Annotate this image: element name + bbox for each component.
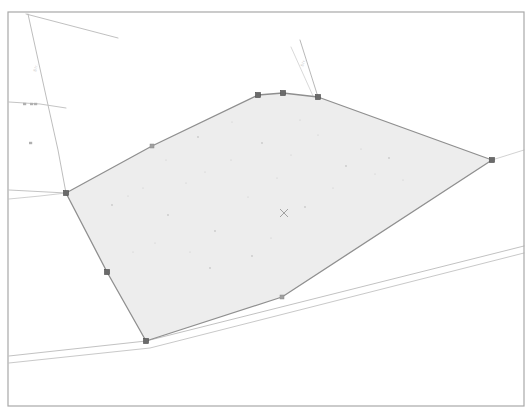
parcel-vertex-handle[interactable]: [64, 191, 69, 196]
tick-mark-west-b: [30, 103, 33, 105]
parcel-speckle: [127, 195, 128, 196]
parcel-speckle: [189, 251, 190, 252]
parcel-vertex-handle[interactable]: [144, 339, 149, 344]
parcel-speckle: [360, 148, 361, 149]
parcel-speckle: [290, 154, 291, 155]
parcel-speckle: [332, 187, 333, 188]
parcel-speckle: [270, 237, 271, 238]
tick-mark-west-a: [23, 103, 26, 105]
parcel-speckle: [204, 171, 205, 172]
parcel-speckle: [167, 214, 169, 216]
parcel-speckle: [304, 206, 306, 208]
parcel-vertex-handle[interactable]: [105, 270, 110, 275]
parcel-speckle: [374, 173, 375, 174]
parcel-speckle: [251, 255, 253, 257]
parcel-vertex-handle[interactable]: [316, 95, 321, 100]
parcel-speckle: [142, 187, 143, 188]
parcel-speckle: [230, 159, 231, 160]
parcel-speckle: [185, 182, 186, 183]
parcel-speckle: [209, 267, 211, 269]
parcel-vertex-handle[interactable]: [256, 93, 261, 98]
parcel-midpoint-handle[interactable]: [150, 144, 154, 148]
parcel-speckle: [111, 204, 113, 206]
parcel-speckle: [299, 119, 300, 120]
parcel-speckle: [345, 165, 347, 167]
tick-mark-west-c: [34, 103, 37, 105]
parcel-speckle: [231, 121, 232, 122]
parcel-speckle: [132, 251, 133, 252]
parcel-vertex-handle[interactable]: [490, 158, 495, 163]
map-vector-layer: Str.Str.: [0, 0, 531, 418]
parcel-speckle: [402, 179, 403, 180]
tick-mark-west-d: [29, 142, 32, 144]
parcel-speckle: [214, 230, 216, 232]
parcel-speckle: [247, 196, 248, 197]
parcel-speckle: [165, 159, 166, 160]
parcel-midpoint-handle[interactable]: [280, 295, 284, 299]
parcel-speckle: [276, 177, 277, 178]
parcel-vertex-handle[interactable]: [281, 91, 286, 96]
parcel-speckle: [197, 136, 199, 138]
parcel-speckle: [317, 134, 318, 135]
cadastral-map-canvas[interactable]: Str.Str.: [0, 0, 531, 418]
parcel-speckle: [388, 157, 390, 159]
parcel-speckle: [261, 142, 263, 144]
parcel-speckle: [154, 242, 155, 243]
